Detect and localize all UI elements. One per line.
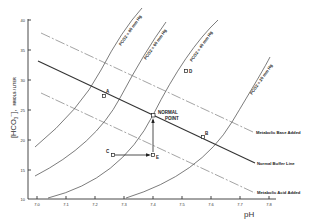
x-tick-7.1: 7.1 [63,202,69,207]
isobar-pco2-80 [35,8,142,147]
point-c-marker [112,154,115,157]
metabolic-base-added-label: Metabolic Base Added [256,130,301,135]
x-axis-title: pH [244,210,254,219]
point-b-label: B [205,131,209,136]
point-c-label: C [106,149,110,154]
x-tick-7.5: 7.5 [179,202,185,207]
y-tick-30: 30 [21,78,26,83]
isobar-pco2-60 [35,22,166,176]
y-tick-25: 25 [21,108,26,113]
svg-text:[HCO3−], MMOLS / LITER: [HCO3−], MMOLS / LITER [8,77,19,138]
ph-bicarbonate-diagram: 40 35 30 25 20 15 10 7.0 7.1 7.2 7.3 7.4… [0,0,320,224]
metabolic-acid-added-line [41,93,255,193]
y-tick-10: 10 [21,197,26,202]
x-tick-7.0: 7.0 [34,202,40,207]
point-labels: A NORMAL POINT B C D E [106,69,209,160]
x-tick-7.3: 7.3 [121,202,127,207]
pco2-80-label: PCO2 = 80 mm Hg [118,14,143,47]
point-d-label: D [189,69,193,74]
y-tick-labels: 40 35 30 25 20 15 10 [21,18,26,202]
y-axis-title: [HCO3−], MMOLS / LITER [8,77,19,138]
x-tick-7.6: 7.6 [208,202,214,207]
pco2-20-label: PCO2 = 20 mm Hg [249,63,274,96]
normal-buffer-line-label: Normal Buffer Line [257,161,295,166]
y-tick-35: 35 [21,48,26,53]
normal-point-label-2: POINT [165,116,179,121]
isobar-pco2-20 [126,57,270,198]
isobar-labels: PCO2 = 80 mm Hg PCO2 = 60 mm Hg PCO2 = 4… [118,14,274,96]
pco2-isobars [35,8,270,198]
normal-buffer-line [38,61,255,163]
arrows [115,118,155,157]
x-tick-7.7: 7.7 [237,202,243,207]
pco2-40-label: PCO2 = 40 mm Hg [189,30,214,63]
x-tick-labels: 7.0 7.1 7.2 7.3 7.4 7.5 7.6 7.7 7.8 [34,202,272,207]
point-a-marker [103,95,106,98]
point-normal-marker [152,114,156,118]
metabolic-base-added-line [41,33,253,132]
x-tick-7.4: 7.4 [150,202,156,207]
metabolic-acid-added-label: Metabolic Acid Added [257,190,301,195]
x-tick-7.2: 7.2 [92,202,98,207]
data-points [103,70,205,157]
isobar-pco2-40 [48,20,218,198]
pco2-60-label: PCO2 = 60 mm Hg [143,28,168,61]
point-a-label: A [106,89,110,94]
point-e-marker [152,154,155,157]
y-tick-40: 40 [21,18,26,23]
point-d-marker [185,70,188,73]
x-tick-7.8: 7.8 [266,202,272,207]
point-e-label: E [156,155,159,160]
normal-point-label-1: NORMAL [158,110,178,115]
y-tick-20: 20 [21,138,26,143]
y-tick-15: 15 [21,168,26,173]
